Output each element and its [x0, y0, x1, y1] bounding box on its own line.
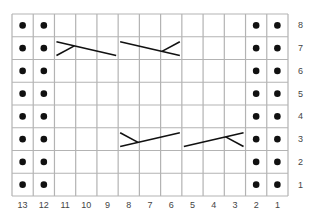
purl-dot	[253, 113, 260, 120]
purl-dot	[274, 113, 281, 120]
purl-dot	[274, 68, 281, 75]
purl-dot	[253, 45, 260, 52]
knitting-chart: 13121110987654321 87654321	[0, 0, 315, 216]
column-label: 9	[105, 200, 110, 210]
purl-dot	[253, 159, 260, 166]
purl-dot	[19, 136, 26, 143]
purl-dot	[19, 113, 26, 120]
column-label: 10	[81, 200, 91, 210]
row-label: 7	[298, 43, 303, 53]
row-label: 2	[298, 157, 303, 167]
cable-symbols	[56, 42, 243, 147]
row-label: 3	[298, 134, 303, 144]
row-label: 6	[298, 66, 303, 76]
purl-dot	[19, 90, 26, 97]
purl-dot	[19, 68, 26, 75]
purl-dot	[41, 68, 48, 75]
purl-dot	[253, 90, 260, 97]
purl-dot	[274, 22, 281, 29]
column-labels: 13121110987654321	[18, 200, 280, 210]
purl-dot	[41, 113, 48, 120]
row-label: 4	[298, 111, 303, 121]
cable-symbol	[120, 133, 180, 147]
purl-dot	[41, 22, 48, 29]
row-label: 8	[298, 20, 303, 30]
cable-symbol	[56, 42, 116, 56]
row-label: 5	[298, 89, 303, 99]
purl-dot	[19, 22, 26, 29]
purl-dot	[41, 90, 48, 97]
purl-dot	[274, 159, 281, 166]
cable-symbol	[184, 133, 244, 147]
purl-dot	[274, 90, 281, 97]
column-label: 6	[169, 200, 174, 210]
purl-dot	[19, 45, 26, 52]
purl-dot	[274, 181, 281, 188]
column-label: 2	[254, 200, 259, 210]
cable-symbol	[120, 42, 180, 56]
purl-dot	[253, 181, 260, 188]
purl-dot	[41, 181, 48, 188]
column-label: 11	[60, 200, 69, 210]
row-label: 1	[298, 180, 303, 190]
column-label: 3	[232, 200, 237, 210]
purl-dot	[253, 136, 260, 143]
purl-dot	[19, 159, 26, 166]
purl-dot	[253, 22, 260, 29]
row-labels: 87654321	[298, 20, 303, 189]
column-label: 12	[39, 200, 49, 210]
column-label: 13	[18, 200, 28, 210]
purl-dot	[41, 136, 48, 143]
purl-dot	[41, 159, 48, 166]
chart-grid	[12, 14, 288, 196]
column-label: 7	[147, 200, 152, 210]
purl-dot	[253, 68, 260, 75]
column-label: 1	[275, 200, 280, 210]
purl-dot	[19, 181, 26, 188]
column-label: 4	[211, 200, 216, 210]
purl-dot	[274, 45, 281, 52]
purl-dot	[41, 45, 48, 52]
column-label: 8	[126, 200, 131, 210]
column-label: 5	[190, 200, 195, 210]
purl-dot	[274, 136, 281, 143]
